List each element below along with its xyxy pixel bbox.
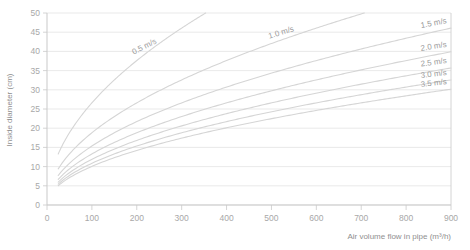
x-tick-label: 300 [175,213,189,223]
series-curve [58,68,451,182]
curve-label-1-5-m-s: 1.5 m/s [420,16,447,30]
y-tick-label: 50 [31,8,41,18]
x-axis-title: Air volume flow in pipe (m³/h) [347,232,451,241]
y-tick-label: 25 [31,104,41,114]
series-labels-group: 0.5 m/s1.0 m/s1.5 m/s2.0 m/s2.5 m/s3.0 m… [131,16,448,89]
x-tick-label: 500 [264,213,278,223]
y-tick-label: 5 [35,181,40,191]
curve-label-3-5-m-s: 3.5 m/s [420,77,447,89]
curve-label-2-5-m-s: 2.5 m/s [420,56,447,69]
series-curve [58,89,451,186]
y-tick-label: 0 [35,200,40,210]
y-tick-label: 10 [31,162,41,172]
x-tick-label: 800 [399,213,413,223]
y-axis-title: Inside diameter (cm) [5,73,14,146]
x-tick-label: 900 [444,213,458,223]
x-tick-label: 0 [45,213,50,223]
x-tick-label: 600 [309,213,323,223]
y-tick-label: 30 [31,85,41,95]
x-tick-label: 200 [130,213,144,223]
curve-label-1-0-m-s: 1.0 m/s [267,24,295,40]
y-tick-label: 35 [31,66,41,76]
curve-label-0-5-m-s: 0.5 m/s [131,37,158,57]
diameter-vs-flow-chart: 0100200300400500600700800900 05101520253… [0,0,470,250]
y-axis-ticks-group: 05101520253035404550 [31,8,47,210]
y-tick-label: 40 [31,46,41,56]
series-curve [58,13,364,169]
chart-container: 0100200300400500600700800900 05101520253… [0,0,470,250]
curve-label-2-0-m-s: 2.0 m/s [420,40,447,53]
x-axis-ticks-group: 0100200300400500600700800900 [45,205,459,223]
y-tick-label: 15 [31,142,41,152]
series-curves-group [58,13,451,186]
y-tick-label: 45 [31,27,41,37]
y-tick-label: 20 [31,123,41,133]
x-tick-label: 100 [85,213,99,223]
x-tick-label: 400 [219,213,233,223]
x-tick-label: 700 [354,213,368,223]
